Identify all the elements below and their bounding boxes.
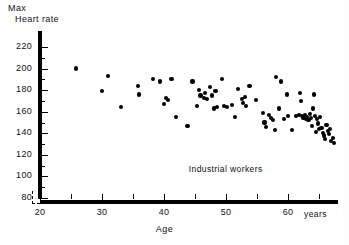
data-point — [233, 115, 237, 119]
data-point — [205, 97, 209, 101]
data-point — [254, 98, 258, 102]
data-point — [262, 120, 266, 124]
data-point — [327, 132, 331, 136]
data-point — [137, 92, 141, 96]
data-point — [106, 74, 110, 78]
data-point — [243, 95, 247, 99]
data-point — [213, 89, 217, 93]
data-point — [264, 125, 268, 129]
data-point — [299, 99, 303, 103]
data-point — [298, 91, 302, 95]
data-point — [328, 127, 332, 131]
data-point — [312, 92, 316, 96]
data-point — [220, 77, 224, 81]
data-point — [310, 124, 314, 128]
data-point — [215, 105, 219, 109]
data-point — [274, 75, 278, 79]
data-point — [169, 77, 173, 81]
data-point — [230, 103, 234, 107]
data-point — [195, 104, 199, 108]
data-point — [324, 123, 328, 127]
scatter-plot-figure: Max Heart rate 80100120140160180200220 2… — [0, 0, 349, 245]
data-point — [210, 93, 214, 97]
data-point — [136, 84, 140, 88]
data-point — [244, 104, 248, 108]
data-point — [277, 106, 281, 110]
data-point — [290, 128, 294, 132]
data-point — [282, 117, 286, 121]
data-point — [331, 136, 335, 140]
page-edge-artifact — [343, 0, 349, 245]
data-point — [166, 98, 170, 102]
data-point — [208, 85, 212, 89]
data-point — [285, 92, 289, 96]
data-point — [247, 84, 251, 88]
chart-annotation: Industrial workers — [189, 164, 263, 174]
data-point — [271, 118, 275, 122]
x-axis-units-label: years — [304, 209, 327, 219]
data-point — [174, 115, 178, 119]
data-point — [332, 141, 336, 145]
data-point — [74, 66, 78, 70]
data-point-layer — [0, 0, 349, 245]
data-point — [236, 87, 240, 91]
data-point — [100, 89, 104, 93]
data-point — [119, 105, 123, 109]
data-point — [38, 57, 42, 61]
data-point — [318, 115, 322, 119]
data-point — [197, 88, 201, 92]
x-axis-title: Age — [0, 224, 349, 234]
data-point — [225, 105, 229, 109]
data-point — [203, 91, 207, 95]
data-point — [151, 77, 155, 81]
data-point — [286, 114, 290, 118]
data-point — [319, 126, 323, 130]
data-point — [190, 79, 194, 83]
data-point — [279, 79, 283, 83]
data-point — [311, 106, 315, 110]
x-axis-title-text: Age — [156, 224, 174, 234]
data-point — [261, 111, 265, 115]
data-point — [162, 102, 166, 106]
data-point — [185, 124, 189, 128]
data-point — [273, 128, 277, 132]
data-point — [158, 79, 162, 83]
data-point — [323, 137, 327, 141]
